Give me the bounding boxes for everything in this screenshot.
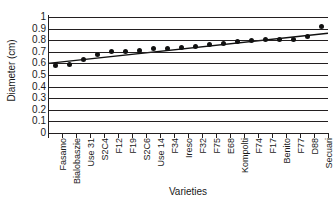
data-point [277,37,282,42]
y-axis-tick-label: 1 [40,12,46,22]
y-axis-tick-label: 0.5 [32,70,46,80]
y-axis-title: Diameter (cm) [0,0,22,140]
gridline [48,52,328,53]
x-axis-tick-label: F77 [297,138,306,154]
y-axis-tick-label: 0 [40,128,46,138]
x-axis-tick-label: Use 31 [87,138,96,167]
data-point [291,37,296,42]
gridline [48,29,328,30]
x-axis-tick-label: F12 [115,138,124,154]
y-axis-tick-label: 0.9 [32,24,46,34]
x-axis-tick-label: S2C6 [143,138,152,161]
gridline [48,98,328,99]
data-point [221,41,226,46]
data-point [137,48,142,53]
data-point [193,44,198,49]
plot-area [48,17,328,133]
y-axis-tick-label: 0.4 [32,82,46,92]
gridline [48,40,328,41]
data-point [207,42,212,47]
x-axis-tick-label: Fasamo [59,138,68,171]
y-axis-tick-label: 0.7 [32,47,46,57]
x-axis-tick-label: F74 [255,138,264,154]
y-axis-tick-labels: 10.90.80.70.60.50.40.30.20.10 [22,0,46,203]
data-point [249,38,254,43]
x-axis-tick-label: E68 [227,138,236,154]
gridline [48,75,328,76]
x-axis-tick-label: F75 [213,138,222,154]
y-axis-tick-label: 0.2 [32,105,46,115]
x-axis-tick-label: Bialobaszie [73,138,82,184]
data-point [263,37,268,42]
y-axis-title-text: Diameter (cm) [6,39,17,101]
x-axis-tick-label: Kompolti [241,138,250,173]
gridline [48,63,328,64]
data-point [165,46,170,51]
data-point [109,49,114,54]
x-axis-tick-label: S2C4 [101,138,110,161]
x-axis-tick-label: Use 14 [157,138,166,167]
gridline [48,121,328,122]
data-point [53,63,58,68]
x-axis-tick-label: F34 [171,138,180,154]
gridline [48,110,328,111]
data-point [151,46,156,51]
x-axis-tick-label: F17 [269,138,278,154]
data-point [95,52,100,57]
chart-container: Diameter (cm) 10.90.80.70.60.50.40.30.20… [0,0,336,203]
gridline [48,17,328,18]
x-axis-tick-label: Benito [283,138,292,164]
y-axis-tick-label: 0.3 [32,93,46,103]
data-point [179,45,184,50]
x-axis-tick-label: F32 [199,138,208,154]
x-axis-tick-label: D88 [311,138,320,155]
data-point [123,49,128,54]
data-point [67,62,72,67]
gridline [48,87,328,88]
x-axis-tick-label: F19 [129,138,138,154]
x-axis-title: Varieties [48,186,328,197]
x-axis-tick-label: Secuari [325,138,334,169]
data-point [235,39,240,44]
x-axis-tick-labels: FasamoBialobaszieUse 31S2C4F12F19S2C6Use… [48,138,328,186]
y-axis-tick-label: 0.8 [32,35,46,45]
data-point [319,24,324,29]
x-axis-tick-label: Ireso [185,138,194,158]
y-axis-tick-label: 0.1 [32,116,46,126]
data-point [81,57,86,62]
y-axis-tick-label: 0.6 [32,58,46,68]
data-point [305,34,310,39]
